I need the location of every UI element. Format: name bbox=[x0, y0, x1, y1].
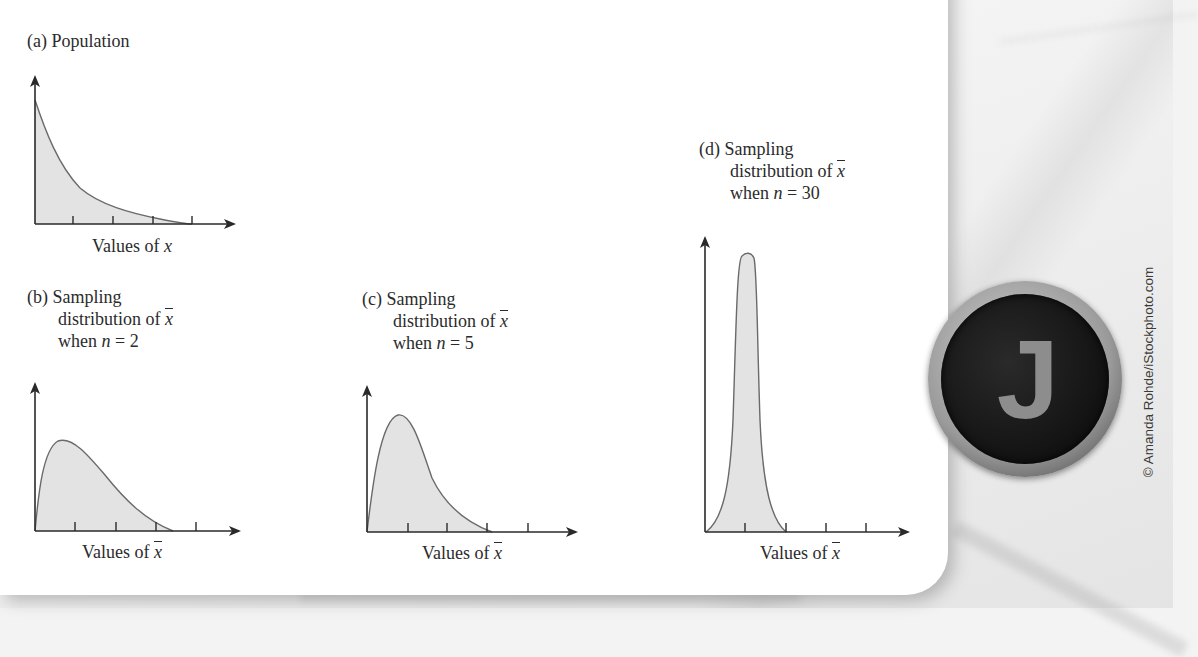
typewriter-key-image: J bbox=[928, 281, 1122, 477]
panel-a-plot bbox=[35, 77, 234, 224]
panel-b-plot bbox=[35, 384, 239, 531]
panel-b-density-area bbox=[35, 440, 173, 531]
typewriter-key-letter: J bbox=[941, 294, 1109, 464]
panel-a-density-area bbox=[35, 100, 192, 224]
panel-d-plot bbox=[705, 238, 908, 532]
photo-credit: © Amanda Rohde/iStockphoto.com bbox=[1141, 267, 1156, 477]
typewriter-key-face: J bbox=[941, 294, 1109, 464]
panel-d-density-area bbox=[706, 253, 786, 532]
panel-c-plot bbox=[367, 387, 576, 532]
